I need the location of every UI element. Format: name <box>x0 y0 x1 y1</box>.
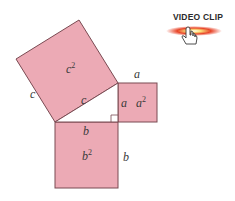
a-top-side-label: a <box>134 67 140 81</box>
a-left-side-label: a <box>121 96 127 110</box>
c-outer-side-label: c <box>30 87 36 101</box>
c-hypotenuse-label: c <box>81 93 87 107</box>
b-right-side-label: b <box>123 150 129 164</box>
b-top-side-label: b <box>83 124 89 138</box>
video-clip-button[interactable] <box>163 10 233 50</box>
